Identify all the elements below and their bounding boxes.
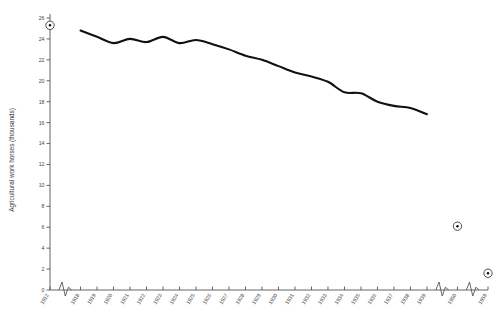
x-tick-label: 1928 [234,292,245,305]
axis-break-mark [59,282,72,296]
x-tick-label: 1921 [119,292,130,305]
x-tick-label: 1934 [333,292,344,305]
x-tick-label: 1923 [152,292,163,305]
x-tick-label: 1931 [284,292,295,305]
x-tick-label: 1932 [300,292,311,305]
line-chart: 02468101214161820222426 1912191819191920… [0,0,500,335]
x-tick-label: 1912 [39,292,50,305]
axis-break-mark [466,282,479,296]
y-tick-label: 4 [42,245,45,251]
x-tick-label: 1925 [185,292,196,305]
data-series [81,31,427,115]
x-tick-label: 1924 [168,292,179,305]
y-tick-label: 22 [39,57,45,63]
y-tick-label: 14 [39,140,45,146]
y-tick-label: 6 [42,224,45,230]
x-tick-label: 1959 [477,292,488,305]
axis-break-mark [436,282,449,296]
y-tick-label: 20 [39,78,45,84]
isolated-markers [46,21,492,277]
x-tick-label: 1930 [267,292,278,305]
x-tick-label: 1922 [135,292,146,305]
x-tick-label: 1933 [317,292,328,305]
y-tick-label: 10 [39,182,45,188]
y-axis-title: Agricultural work horses (thousands) [8,108,16,212]
y-tick-label: 18 [39,99,45,105]
x-tick-label: 1926 [201,292,212,305]
x-tick-label: 1927 [218,292,229,305]
y-tick-label: 16 [39,120,45,126]
data-point-marker [46,21,54,29]
x-tick-label: 1920 [102,292,113,305]
data-point-marker [484,269,492,277]
x-tick-label: 1918 [69,292,80,305]
x-tick-label: 1938 [399,292,410,305]
y-tick-label: 24 [39,36,45,42]
y-tick-label: 8 [42,203,45,209]
x-tick-label: 1929 [251,292,262,305]
x-axis: 1912191819191920192119221923192419251926… [39,282,488,305]
y-tick-label: 12 [39,161,45,167]
data-point-marker [453,222,461,230]
y-tick-label: 2 [42,266,45,272]
x-tick-label: 1937 [383,292,394,305]
x-tick-label: 1950 [446,292,457,305]
x-tick-label: 1939 [416,292,427,305]
x-tick-label: 1919 [86,292,97,305]
y-tick-label: 26 [39,15,45,21]
x-tick-label: 1935 [350,292,361,305]
series-line-work-horses [81,31,427,115]
y-axis: 02468101214161820222426 [39,14,50,293]
chart-container: 02468101214161820222426 1912191819191920… [0,0,500,335]
x-tick-label: 1936 [366,292,377,305]
